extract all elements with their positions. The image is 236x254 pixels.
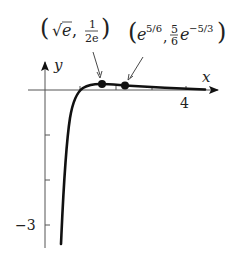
y-axis-label: y (53, 56, 63, 74)
svg-text:1: 1 (89, 18, 96, 31)
x-axis-label: x (202, 68, 211, 86)
y-ticks (45, 135, 50, 225)
svg-text:e: e (62, 21, 71, 40)
svg-text:,: , (72, 21, 77, 40)
svg-text:(: ( (128, 18, 137, 46)
svg-text:): ) (101, 14, 110, 42)
max-point-label: ( √ e , 1 2e ) (40, 14, 110, 45)
svg-text:): ) (217, 18, 226, 46)
x-tick-label-4: 4 (180, 95, 189, 111)
y-tick-label-neg3: −3 (15, 217, 36, 233)
inflection-arrow (130, 57, 143, 78)
svg-text:(: ( (40, 14, 49, 42)
max-point (98, 80, 106, 88)
svg-text:−5/3: −5/3 (189, 23, 213, 34)
function-graph: y x 4 −3 ( √ e , 1 2e ) ( e 5/6 , 5 6 e … (0, 0, 236, 254)
svg-text:2e: 2e (85, 32, 99, 45)
inflection-point (121, 82, 129, 90)
svg-text:,: , (163, 29, 167, 45)
svg-text:5/6: 5/6 (146, 23, 162, 34)
inflection-point-label: ( e 5/6 , 5 6 e −5/3 ) (128, 18, 226, 48)
svg-text:6: 6 (171, 35, 178, 48)
max-arrow (93, 52, 100, 75)
